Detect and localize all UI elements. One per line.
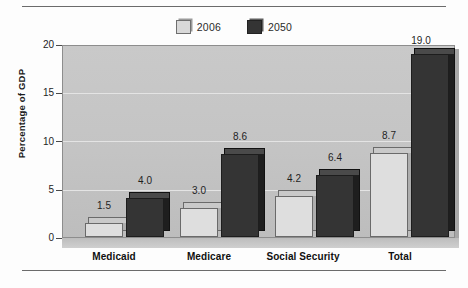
bar-value-medicare-2050: 8.6 xyxy=(213,131,267,142)
bar-value-medicaid-2006: 1.5 xyxy=(77,200,131,211)
bar-value-social-security-2050: 6.4 xyxy=(308,152,362,163)
bar-medicaid-2006[interactable] xyxy=(85,223,123,237)
x-axis-band xyxy=(62,238,459,248)
legend-item-2050[interactable]: 2050 xyxy=(247,20,292,34)
bar-face xyxy=(85,223,123,237)
y-tick-label-0: 0 xyxy=(0,232,54,243)
bar-medicaid-2050[interactable] xyxy=(126,198,164,237)
legend-label-2006: 2006 xyxy=(197,21,221,33)
legend-item-2006[interactable]: 2006 xyxy=(176,20,221,34)
bar-face xyxy=(126,198,164,237)
bar-medicare-2006[interactable] xyxy=(180,208,218,237)
bar-side xyxy=(449,48,455,231)
bar-face xyxy=(411,54,449,237)
bar-face xyxy=(275,196,313,237)
bar-value-medicaid-2050: 4.0 xyxy=(118,175,172,186)
gridline-15 xyxy=(63,93,454,94)
bar-value-total-2050: 19.0 xyxy=(394,35,448,46)
bar-social-security-2050[interactable] xyxy=(316,175,354,237)
chart-legend: 2006 2050 xyxy=(0,20,468,34)
bar-side xyxy=(354,169,360,231)
bar-value-social-security-2006: 4.2 xyxy=(267,173,321,184)
bar-total-2006[interactable] xyxy=(370,153,408,237)
bar-face xyxy=(370,153,408,237)
bar-face xyxy=(180,208,218,237)
x-label-medicare: Medicare xyxy=(157,251,261,262)
bar-face xyxy=(316,175,354,237)
legend-label-2050: 2050 xyxy=(268,21,292,33)
chart-figure: 2006 2050 Percentage of GDP 20 15 10 5 0… xyxy=(0,0,468,288)
bar-value-medicare-2006: 3.0 xyxy=(172,185,226,196)
bar-face xyxy=(221,154,259,237)
x-label-total: Total xyxy=(348,251,452,262)
bar-medicare-2050[interactable] xyxy=(221,154,259,237)
y-tick-label-10: 10 xyxy=(0,136,54,147)
y-tick-label-15: 15 xyxy=(0,87,54,98)
y-tick-label-5: 5 xyxy=(0,184,54,195)
bar-total-2050[interactable] xyxy=(411,54,449,237)
y-axis-title: Percentage of GDP xyxy=(16,49,27,179)
x-label-medicaid: Medicaid xyxy=(62,251,166,262)
bar-social-security-2006[interactable] xyxy=(275,196,313,237)
bar-value-total-2006: 8.7 xyxy=(362,130,416,141)
light-swatch-icon xyxy=(176,20,191,34)
y-tick-label-20: 20 xyxy=(0,39,54,50)
bar-side xyxy=(259,148,265,231)
dark-swatch-icon xyxy=(247,20,262,34)
top-divider-rule xyxy=(22,6,446,7)
x-label-social-security: Social Security xyxy=(248,251,358,262)
bottom-divider-rule xyxy=(22,270,446,271)
plot-area: 1.5 4.0 3.0 8.6 4.2 xyxy=(62,45,455,238)
